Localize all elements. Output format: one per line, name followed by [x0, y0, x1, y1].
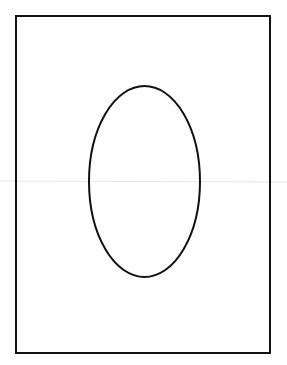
diagram-canvas — [0, 0, 287, 365]
background — [0, 0, 287, 365]
